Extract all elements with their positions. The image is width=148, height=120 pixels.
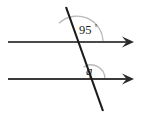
geometry-figure: 95 ° q <box>0 0 148 120</box>
lower-angle-label: q <box>86 64 92 78</box>
upper-angle-degree-symbol: ° <box>95 23 98 32</box>
upper-angle-label: 95 <box>79 23 92 37</box>
geometry-diagram: 95 ° q <box>0 0 148 120</box>
